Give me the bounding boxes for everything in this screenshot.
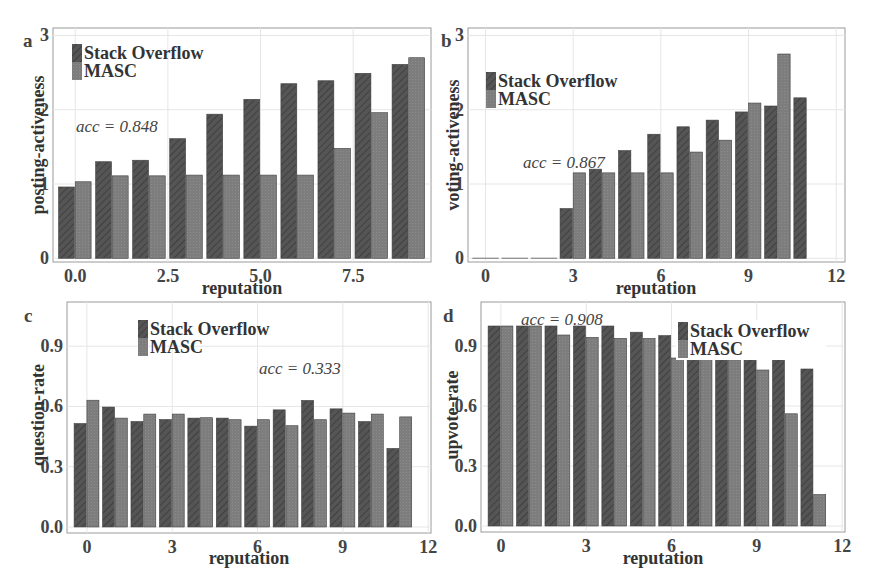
bar-masc xyxy=(112,176,128,258)
bar-masc xyxy=(371,414,383,527)
bar-masc xyxy=(615,338,627,526)
legend: Stack OverflowMASC xyxy=(484,70,634,110)
x-tick-label: 3 xyxy=(569,266,578,286)
bar-masc xyxy=(115,418,127,527)
bar-stack-overflow xyxy=(573,326,585,526)
bar-masc xyxy=(529,326,541,526)
y-tick-label: 0.9 xyxy=(41,336,64,356)
legend-swatch-masc xyxy=(72,62,82,80)
y-tick-label: 0.0 xyxy=(41,517,64,537)
bar-masc xyxy=(261,175,277,258)
x-tick-label: 0 xyxy=(481,266,490,286)
bar-stack-overflow xyxy=(103,407,115,527)
bar-masc xyxy=(672,358,684,526)
bar-stack-overflow xyxy=(207,114,223,258)
panel-c-letter: c xyxy=(24,305,32,326)
bar-stack-overflow xyxy=(716,358,728,526)
bar-masc xyxy=(501,326,513,526)
bar-stack-overflow xyxy=(630,332,642,526)
bar-stack-overflow xyxy=(648,134,660,258)
legend-swatch-stack-overflow xyxy=(72,44,82,62)
x-tick-label: 2.5 xyxy=(157,266,180,286)
bar-masc xyxy=(409,58,425,259)
bar-stack-overflow xyxy=(488,326,500,526)
bar-masc xyxy=(602,173,614,258)
bar-masc xyxy=(728,360,740,526)
bar-masc xyxy=(343,413,355,527)
legend-label-stack-overflow: Stack Overflow xyxy=(150,319,269,339)
panel-b-ylabel: voting-activeness xyxy=(443,80,463,211)
bar-masc xyxy=(814,495,826,526)
bar-stack-overflow xyxy=(273,410,285,527)
bar-stack-overflow xyxy=(358,422,370,527)
legend-swatch-stack-overflow xyxy=(138,320,148,338)
y-tick-label: 3 xyxy=(40,25,49,45)
bar-stack-overflow xyxy=(59,187,75,258)
bar-stack-overflow xyxy=(794,98,806,258)
bar-masc xyxy=(372,113,388,259)
bar-stack-overflow xyxy=(387,448,399,527)
bar-stack-overflow xyxy=(318,81,334,259)
x-tick-label: 9 xyxy=(752,536,761,556)
panel-c-xlabel: reputation xyxy=(209,548,290,568)
legend-label-masc: MASC xyxy=(84,61,137,81)
panel-b-letter: b xyxy=(441,30,452,51)
bar-masc xyxy=(778,54,790,258)
bar-masc xyxy=(335,148,351,258)
bar-masc xyxy=(586,337,598,526)
bar-masc xyxy=(757,370,769,526)
bar-masc xyxy=(690,152,702,258)
bar-stack-overflow xyxy=(545,326,557,526)
panel-a-xlabel: reputation xyxy=(202,278,283,298)
panel-d-xlabel: reputation xyxy=(623,548,704,568)
bar-stack-overflow xyxy=(735,112,747,258)
y-tick-label: 0.0 xyxy=(455,516,478,536)
bar-masc xyxy=(700,358,712,526)
bar-masc xyxy=(87,400,99,527)
bar-masc xyxy=(749,103,761,258)
bar-masc xyxy=(661,173,673,258)
bar-stack-overflow xyxy=(330,409,342,527)
bar-stack-overflow xyxy=(744,358,756,526)
bar-stack-overflow xyxy=(302,400,314,527)
x-tick-label: 0 xyxy=(496,536,505,556)
accuracy-annotation: acc = 0.867 xyxy=(523,153,606,172)
x-tick-label: 0 xyxy=(82,537,91,557)
panel-c-ylabel: question-rate xyxy=(28,364,48,466)
y-tick-label: 0 xyxy=(455,248,464,268)
panel-b-xlabel: reputation xyxy=(616,278,697,298)
x-tick-label: 0.0 xyxy=(64,266,87,286)
bar-stack-overflow xyxy=(74,424,86,527)
bar-stack-overflow xyxy=(159,420,171,527)
bar-stack-overflow xyxy=(131,422,143,527)
y-tick-label: 0 xyxy=(40,248,49,268)
x-tick-label: 12 xyxy=(827,266,845,286)
x-tick-label: 3 xyxy=(168,537,177,557)
panel-d: 0.00.30.60.9036912Stack OverflowMASCacc … xyxy=(455,302,852,556)
legend-swatch-masc xyxy=(486,90,496,108)
bar-stack-overflow xyxy=(517,326,529,526)
bar-masc xyxy=(201,418,213,527)
bar-stack-overflow xyxy=(677,127,689,258)
x-tick-label: 9 xyxy=(338,537,347,557)
y-tick-label: 0.9 xyxy=(455,336,478,356)
legend-label-stack-overflow: Stack Overflow xyxy=(498,71,617,91)
bar-masc xyxy=(186,175,202,258)
legend-label-masc: MASC xyxy=(498,89,551,109)
bar-masc xyxy=(258,420,270,527)
panel-c: 0.00.30.60.9036912Stack OverflowMASCacc … xyxy=(41,302,438,557)
bar-masc xyxy=(719,140,731,258)
panel-a-ylabel: posting-activeness xyxy=(28,76,48,215)
legend: Stack OverflowMASC xyxy=(136,318,286,358)
legend: Stack OverflowMASC xyxy=(70,42,220,82)
bar-stack-overflow xyxy=(133,160,149,258)
x-tick-label: 12 xyxy=(419,537,437,557)
x-tick-label: 7.5 xyxy=(342,266,365,286)
bar-masc xyxy=(75,182,91,259)
bar-stack-overflow xyxy=(687,358,699,526)
bar-stack-overflow xyxy=(602,326,614,526)
y-tick-label: 3 xyxy=(455,25,464,45)
legend-swatch-stack-overflow xyxy=(678,322,688,340)
legend-swatch-masc xyxy=(138,338,148,356)
bar-masc xyxy=(314,420,326,527)
